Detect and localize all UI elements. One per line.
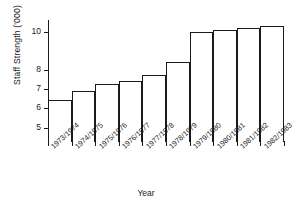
y-axis-tick: 8 xyxy=(44,70,49,71)
x-axis-tick-labels: 1973/19741974/19751975/19761976/19771977… xyxy=(48,144,292,188)
bar-chart: Staff Strength ('000) 567810 1973/197419… xyxy=(0,0,292,205)
y-axis-tick-label: 7 xyxy=(36,83,41,94)
y-axis-tick-label: 8 xyxy=(36,64,41,75)
y-axis-tick: 7 xyxy=(44,89,49,90)
y-axis-tick-label: 6 xyxy=(36,102,41,113)
x-axis-title: Year xyxy=(0,188,292,198)
y-axis-title: Staff Strength ('000) xyxy=(12,0,22,100)
y-axis-tick: 10 xyxy=(44,32,49,33)
y-axis-tick-label: 10 xyxy=(32,26,41,37)
y-axis-tick-label: 5 xyxy=(36,122,41,133)
